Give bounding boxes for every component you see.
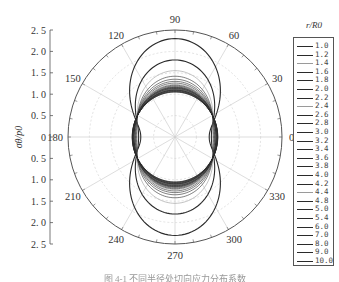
figure-caption: 图 4-1 不同半径处切向应力分布系数 [85,272,265,282]
radial-tick-label: 1. 0 [31,89,46,100]
angle-label: 30 [272,73,283,84]
y-axis-label: σθ/p0 [13,126,24,149]
radial-tick-label: 0. 5 [31,110,46,121]
angle-tick [242,217,244,219]
legend-swatch [297,141,313,142]
angle-tick [193,32,194,35]
radial-tick-label: 0. 5 [31,153,46,164]
angle-tick [138,235,139,238]
legend-swatch [297,261,313,262]
angle-tick [74,173,77,174]
angle-tick [122,44,124,47]
angle-tick [193,239,194,242]
angle-tick [265,84,268,86]
legend-swatch [297,192,313,193]
angle-tick [93,68,95,70]
legend-swatch [297,123,313,124]
angle-label: 300 [226,234,242,245]
angle-label: 240 [108,234,124,245]
angle-label: 150 [65,73,81,84]
angle-tick [255,204,257,206]
angle-tick [227,227,229,230]
radial-tick-label: 0 [41,132,46,143]
legend-swatch [297,132,313,133]
legend-swatch [297,55,313,56]
legend-swatch [297,227,313,228]
radial-tick-label: 2. 5 [31,25,46,36]
angle-tick [70,118,73,119]
angle-label: 90 [170,14,181,25]
angle-tick [93,204,95,206]
angle-tick [273,173,276,174]
angle-tick [211,235,212,238]
angle-tick [227,44,229,47]
angle-label: 210 [65,191,81,202]
legend-swatch [297,149,313,150]
legend-swatch [297,89,313,90]
angle-tick [211,36,212,39]
legend-swatch [297,218,313,219]
radial-tick-label: 1. 5 [31,196,46,207]
angle-tick [156,32,157,35]
angle-tick [156,239,157,242]
angle-tick [265,189,268,191]
legend-swatch [297,80,313,81]
legend-swatch [297,115,313,116]
legend-title: r/R0 [293,20,335,30]
angle-tick [273,100,276,101]
legend: 1.01.21.41.61.82.02.22.42.62.83.03.23.43… [293,37,334,266]
legend-swatch [297,175,313,176]
angle-label: 270 [167,250,183,261]
angle-tick [82,84,85,86]
angle-tick [138,36,139,39]
angle-label: 330 [269,191,285,202]
legend-swatch [297,72,313,73]
radial-tick-label: 2. 0 [31,46,46,57]
angle-label: 60 [229,30,240,41]
radial-tick-label: 1. 0 [31,174,46,185]
legend-swatch [297,235,313,236]
legend-swatch [297,252,313,253]
angle-tick [277,118,280,119]
legend-swatch [297,63,313,64]
legend-swatch [297,46,313,47]
angle-tick [74,100,77,101]
legend-swatch [297,201,313,202]
angle-tick [242,55,244,57]
legend-swatch [297,184,313,185]
angle-tick [122,227,124,230]
angle-label: 120 [108,30,124,41]
legend-swatch [297,98,313,99]
angle-tick [82,189,85,191]
angle-tick [255,68,257,70]
radial-tick-label: 2. 0 [31,217,46,228]
legend-swatch [297,106,313,107]
angle-tick [70,155,73,156]
legend-swatch [297,166,313,167]
legend-swatch [297,244,313,245]
angle-tick [106,217,108,219]
radial-tick-label: 2. 5 [31,239,46,250]
angle-tick [277,155,280,156]
legend-swatch [297,158,313,159]
legend-label: 10.0 [315,256,333,266]
polar-chart: 03060901201501802102402703003302. 52. 01… [0,0,339,282]
legend-item: 10.0 [297,256,333,266]
radial-tick-label: 1. 5 [31,67,46,78]
angle-tick [106,55,108,57]
legend-swatch [297,209,313,210]
